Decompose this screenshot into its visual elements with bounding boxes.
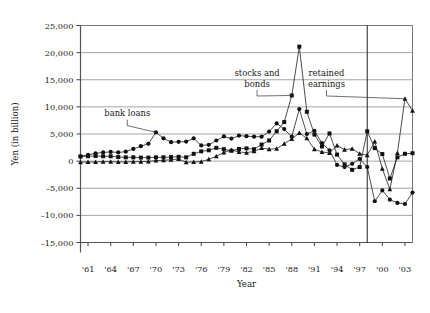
x-tick-label: '73 xyxy=(172,264,185,274)
marker-circle-bank-loans xyxy=(109,150,113,154)
y-tick-label: –10,000 xyxy=(41,210,74,220)
marker-circle-bank-loans xyxy=(282,127,286,131)
marker-circle-bank-loans xyxy=(101,150,105,154)
stocks-and-bonds-annotation-label: stocks andbonds xyxy=(234,68,280,89)
marker-square-stocks-and-bonds xyxy=(139,156,143,160)
marker-square-stocks-and-bonds xyxy=(267,139,271,143)
y-tick-label: 10,000 xyxy=(45,102,74,112)
marker-circle-bank-loans xyxy=(244,134,248,138)
marker-circle-bank-loans xyxy=(305,132,309,136)
marker-square-stocks-and-bonds xyxy=(275,129,279,133)
marker-square-stocks-and-bonds xyxy=(312,133,316,137)
marker-square-stocks-and-bonds xyxy=(282,120,286,124)
marker-circle-bank-loans xyxy=(229,137,233,141)
marker-circle-bank-loans xyxy=(388,198,392,202)
x-tick-label: '82 xyxy=(240,264,253,274)
marker-square-stocks-and-bonds xyxy=(305,110,309,114)
marker-square-stocks-and-bonds xyxy=(328,131,332,135)
marker-square-stocks-and-bonds xyxy=(343,162,347,166)
marker-circle-bank-loans xyxy=(259,135,263,139)
marker-circle-bank-loans xyxy=(131,147,135,151)
marker-square-stocks-and-bonds xyxy=(192,152,196,156)
marker-triangle-retained-earnings xyxy=(387,187,392,192)
stocks-and-bonds-annotation-leader-line xyxy=(257,90,292,96)
y-tick-label: 5,000 xyxy=(50,129,73,139)
marker-square-stocks-and-bonds xyxy=(350,168,354,172)
y-tick-label: –5,000 xyxy=(46,183,74,193)
marker-triangle-retained-earnings xyxy=(282,141,287,146)
chart-canvas: 25,00020,00015,00010,0005,0000–5,000–10,… xyxy=(0,0,430,313)
x-tick-label: '79 xyxy=(218,264,231,274)
marker-circle-bank-loans xyxy=(267,129,271,133)
marker-circle-bank-loans xyxy=(199,143,203,147)
marker-square-stocks-and-bonds xyxy=(380,152,384,156)
marker-square-stocks-and-bonds xyxy=(358,165,362,169)
x-tick-label: '70 xyxy=(150,264,163,274)
marker-circle-bank-loans xyxy=(161,136,165,140)
marker-square-stocks-and-bonds xyxy=(297,45,301,49)
marker-square-stocks-and-bonds xyxy=(86,154,90,158)
marker-square-stocks-and-bonds xyxy=(320,144,324,148)
marker-square-stocks-and-bonds xyxy=(131,155,135,159)
marker-square-stocks-and-bonds xyxy=(388,176,392,180)
marker-circle-bank-loans xyxy=(373,199,377,203)
marker-square-stocks-and-bonds xyxy=(411,151,415,155)
marker-circle-bank-loans xyxy=(237,134,241,138)
marker-square-stocks-and-bonds xyxy=(403,152,407,156)
marker-circle-bank-loans xyxy=(176,140,180,144)
marker-circle-bank-loans xyxy=(116,150,120,154)
x-tick-label: '61 xyxy=(82,264,95,274)
bank-loans-annotation-leader-line xyxy=(127,120,156,133)
marker-circle-bank-loans xyxy=(410,190,414,194)
marker-triangle-retained-earnings xyxy=(372,139,377,144)
marker-square-stocks-and-bonds xyxy=(124,155,128,159)
y-tick-label: 25,000 xyxy=(45,21,74,31)
marker-circle-bank-loans xyxy=(184,139,188,143)
marker-circle-bank-loans xyxy=(146,142,150,146)
marker-square-stocks-and-bonds xyxy=(184,155,188,159)
marker-circle-bank-loans xyxy=(207,143,211,147)
marker-circle-bank-loans xyxy=(365,165,369,169)
marker-circle-bank-loans xyxy=(403,202,407,206)
marker-triangle-retained-earnings xyxy=(357,151,362,156)
marker-triangle-retained-earnings xyxy=(297,130,302,135)
marker-triangle-retained-earnings xyxy=(380,166,385,171)
retained-earnings-annotation-label: retainedearnings xyxy=(308,68,345,89)
x-tick-label: '00 xyxy=(376,264,389,274)
marker-triangle-retained-earnings xyxy=(410,108,415,113)
marker-square-stocks-and-bonds xyxy=(101,154,105,158)
x-tick-label: '94 xyxy=(331,264,344,274)
marker-circle-bank-loans xyxy=(124,150,128,154)
marker-circle-bank-loans xyxy=(214,138,218,142)
marker-triangle-retained-earnings xyxy=(304,136,309,141)
marker-circle-bank-loans xyxy=(139,144,143,148)
marker-square-stocks-and-bonds xyxy=(245,146,249,150)
x-tick-label: '64 xyxy=(104,264,117,274)
y-axis-title: Yen (in billion) xyxy=(10,102,20,166)
retained-earnings-annotation-leader-line xyxy=(326,90,404,99)
marker-square-stocks-and-bonds xyxy=(365,129,369,133)
marker-triangle-retained-earnings xyxy=(214,154,219,159)
x-tick-label: '88 xyxy=(285,264,298,274)
bank-loans-annotation-label: bank loans xyxy=(104,108,150,118)
marker-square-stocks-and-bonds xyxy=(199,149,203,153)
marker-triangle-retained-earnings xyxy=(350,146,355,151)
y-tick-label: 20,000 xyxy=(45,48,74,58)
x-tick-label: '67 xyxy=(127,264,140,274)
marker-circle-bank-loans xyxy=(252,135,256,139)
marker-circle-bank-loans xyxy=(192,136,196,140)
chart-figure: 25,00020,00015,00010,0005,0000–5,000–10,… xyxy=(0,0,430,313)
marker-circle-bank-loans xyxy=(169,140,173,144)
marker-triangle-retained-earnings xyxy=(206,157,211,162)
marker-circle-bank-loans xyxy=(275,121,279,125)
marker-circle-bank-loans xyxy=(395,201,399,205)
x-tick-label: '91 xyxy=(308,264,321,274)
y-tick-label: 15,000 xyxy=(45,75,74,85)
y-tick-label: –15,000 xyxy=(41,238,74,248)
marker-square-stocks-and-bonds xyxy=(79,155,83,159)
marker-square-stocks-and-bonds xyxy=(335,153,339,157)
marker-square-stocks-and-bonds xyxy=(207,148,211,152)
x-tick-label: '03 xyxy=(399,264,412,274)
marker-square-stocks-and-bonds xyxy=(116,155,120,159)
x-tick-label: '97 xyxy=(353,264,366,274)
